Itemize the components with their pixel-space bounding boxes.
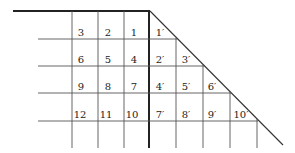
cell-label: 1′ (156, 27, 165, 38)
cell-label: 9 (78, 81, 84, 92)
cell-label: 4 (131, 54, 137, 65)
cell-label: 11 (100, 109, 113, 120)
cell-label: 9′ (208, 109, 217, 120)
diagonal-edge-line (150, 11, 283, 145)
grid-diagram (0, 0, 295, 153)
cell-label: 10′ (234, 109, 249, 120)
cell-label: 1 (131, 27, 137, 38)
cell-label: 12 (74, 109, 87, 120)
cell-label: 3 (78, 27, 84, 38)
cell-label: 3′ (182, 54, 191, 65)
cell-label: 10 (126, 109, 139, 120)
cell-label: 5 (105, 54, 111, 65)
cell-label: 8′ (182, 109, 191, 120)
cell-label: 7′ (156, 109, 165, 120)
cell-label: 6′ (208, 81, 217, 92)
cell-label: 8 (105, 81, 111, 92)
cell-label: 5′ (182, 81, 191, 92)
cell-label: 2′ (156, 54, 165, 65)
cell-label: 2 (105, 27, 111, 38)
cell-label: 6 (78, 54, 84, 65)
cell-label: 4′ (156, 81, 165, 92)
cell-label: 7 (131, 81, 137, 92)
